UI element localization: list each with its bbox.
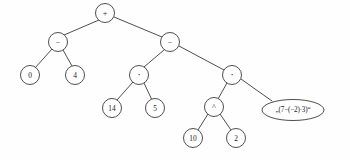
tree-edge-dot-l-to-five — [144, 83, 152, 100]
tree-edge-root-to-minus-r — [114, 17, 162, 37]
tree-edge-dot-r-to-caret — [218, 83, 227, 99]
tree-edge-caret-to-two — [220, 114, 231, 130]
node-label-dot-l: · — [137, 68, 141, 80]
tree-node-dot-r[interactable]: · — [223, 66, 242, 85]
tree-node-two[interactable]: 2 — [227, 129, 246, 148]
tree-node-five[interactable]: 5 — [146, 99, 165, 118]
tree-edge-dot-l-to-fourteen — [117, 82, 133, 100]
tree-edge-caret-to-ten — [198, 114, 208, 130]
tree-node-four[interactable]: 4 — [66, 66, 85, 85]
node-label-dot-r: · — [230, 68, 234, 80]
tree-node-string[interactable]: „(7−(−2)·3)“ — [262, 100, 324, 121]
node-label-minus-r: − — [168, 38, 173, 47]
tree-node-zero[interactable]: 0 — [21, 66, 40, 85]
node-label-five: 5 — [153, 104, 157, 113]
tree-node-minus-r[interactable]: − — [161, 33, 180, 52]
expression-tree-canvas: +−−04··145^102„(7−(−2)·3)“ — [0, 0, 350, 160]
expression-tree-figure: +−−04··145^102„(7−(−2)·3)“ — [0, 0, 350, 160]
tree-node-dot-l[interactable]: · — [130, 66, 149, 85]
nodes-group: +−−04··145^102„(7−(−2)·3)“ — [21, 4, 325, 148]
tree-node-fourteen[interactable]: 14 — [103, 99, 122, 118]
tree-node-caret[interactable]: ^ — [205, 98, 224, 117]
node-label-minus-l: − — [56, 38, 61, 47]
tree-edge-dot-r-to-string — [241, 79, 272, 101]
tree-edge-minus-r-to-dot-l — [144, 50, 164, 67]
tree-node-root[interactable]: + — [96, 4, 115, 23]
node-label-caret: ^ — [212, 103, 216, 112]
tree-edge-minus-l-to-four — [63, 50, 72, 66]
tree-edge-minus-l-to-zero — [35, 49, 52, 68]
node-label-ten: 10 — [189, 134, 197, 143]
node-label-root: + — [103, 9, 108, 18]
node-label-four: 4 — [73, 71, 77, 80]
node-label-zero: 0 — [28, 71, 32, 80]
node-label-fourteen: 14 — [108, 104, 116, 113]
tree-node-minus-l[interactable]: − — [49, 33, 68, 52]
tree-edge-minus-r-to-dot-r — [179, 46, 224, 70]
tree-edge-root-to-minus-l — [64, 20, 99, 35]
tree-node-ten[interactable]: 10 — [184, 129, 203, 148]
node-label-two: 2 — [234, 134, 238, 143]
node-label-string: „(7−(−2)·3)“ — [276, 106, 311, 114]
